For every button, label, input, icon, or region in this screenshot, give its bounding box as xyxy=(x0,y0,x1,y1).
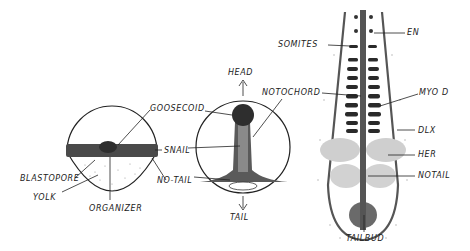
label-myod: MYO D xyxy=(419,88,449,97)
zebrafish-gene-expression-diagram: GOOSECOID SNAIL NO-TAIL BLASTOPORE YOLK … xyxy=(0,0,470,251)
label-head: HEAD xyxy=(228,68,253,77)
label-en: EN xyxy=(407,28,419,37)
goosecoid-dot xyxy=(232,104,254,126)
label-yolk: YOLK xyxy=(33,193,56,202)
her-expression-left xyxy=(320,138,360,162)
label-dlx: DLX xyxy=(418,126,436,135)
label-blastopore: BLASTOPORE xyxy=(20,174,79,183)
her-expression-right xyxy=(366,138,406,162)
label-tailbud: TAILBUD xyxy=(346,234,384,243)
goosecoid-dot xyxy=(99,141,117,153)
late-gastrula-embryo xyxy=(188,80,290,210)
early-gastrula-embryo xyxy=(62,106,166,200)
label-no-tail-1: NO-TAIL xyxy=(157,176,192,185)
label-notochord-2: NOTOCHORD xyxy=(262,88,320,97)
notochord xyxy=(360,10,366,230)
label-snail-1: SNAIL xyxy=(164,146,190,155)
label-organizer: ORGANIZER xyxy=(89,204,142,213)
label-goosecoid-1: GOOSECOID xyxy=(150,104,205,113)
label-notail: NOTAIL xyxy=(418,171,450,180)
label-her: HER xyxy=(418,150,436,159)
label-tail: TAIL xyxy=(230,213,249,222)
no-tail-band xyxy=(229,182,257,190)
label-somites: SOMITES xyxy=(278,40,318,49)
notochord-stripe xyxy=(238,125,248,172)
segmentation-embryo xyxy=(317,10,418,240)
